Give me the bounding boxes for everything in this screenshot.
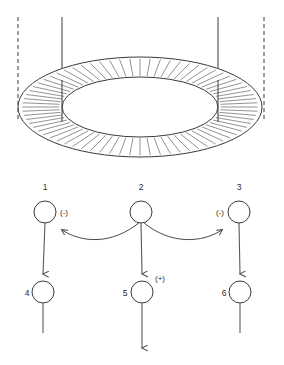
neural-ring-diagram: 1 2 3 (-) (-) 4 5 6 (+) xyxy=(0,0,284,365)
vertical-connectors xyxy=(43,223,240,274)
sign-minus-node-1: (-) xyxy=(60,208,68,217)
node-label-4: 4 xyxy=(25,288,30,298)
node-label-6: 6 xyxy=(222,288,227,298)
node-2[interactable] xyxy=(130,201,152,223)
torus-ring xyxy=(18,57,262,157)
node-6[interactable] xyxy=(229,281,251,303)
connector-2-to-1-curve xyxy=(62,222,140,240)
node-label-5: 5 xyxy=(123,288,128,298)
curved-connectors xyxy=(62,222,222,240)
connector-3-to-6 xyxy=(239,223,240,274)
node-label-3: 3 xyxy=(237,182,242,192)
node-3[interactable] xyxy=(228,201,250,223)
node-5[interactable] xyxy=(131,281,153,303)
sign-plus-node-5: (+) xyxy=(155,274,165,283)
connector-2-to-5 xyxy=(141,223,142,274)
node-label-1: 1 xyxy=(43,182,48,192)
connector-2-to-3-curve xyxy=(143,222,222,240)
node-label-2: 2 xyxy=(139,182,144,192)
output-connectors xyxy=(43,303,240,348)
bottom-row-nodes xyxy=(32,281,251,303)
diagram-canvas: 1 2 3 (-) (-) 4 5 6 (+) xyxy=(0,0,284,365)
node-4[interactable] xyxy=(32,281,54,303)
connector-1-to-4 xyxy=(43,223,45,274)
node-1[interactable] xyxy=(34,201,56,223)
sign-minus-node-3: (-) xyxy=(216,208,224,217)
